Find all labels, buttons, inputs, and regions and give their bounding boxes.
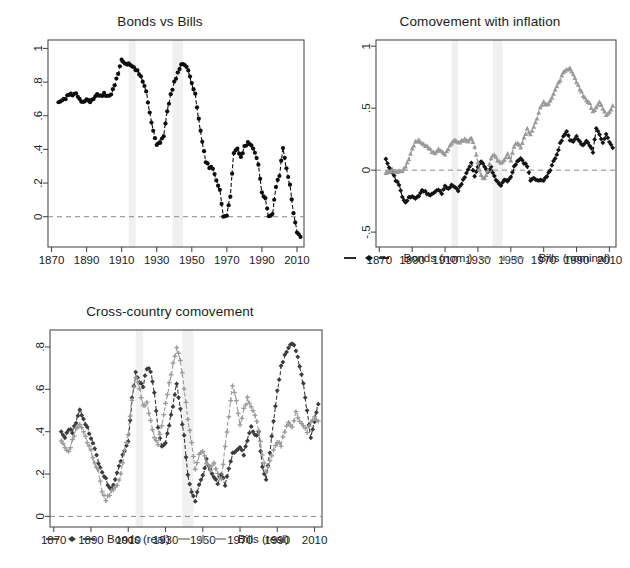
data-point	[263, 196, 267, 200]
chart-svg-comovement-with-inflation: 1.50-.518701890191019301950197019902010	[330, 32, 630, 277]
data-point	[162, 134, 166, 138]
data-point	[290, 197, 294, 201]
data-point	[74, 91, 78, 95]
data-point	[265, 206, 269, 210]
data-point	[148, 110, 152, 114]
data-point	[383, 157, 388, 162]
data-point	[235, 147, 239, 151]
data-point	[150, 379, 155, 384]
data-point	[158, 141, 162, 145]
data-point	[241, 151, 245, 155]
data-point	[223, 483, 228, 488]
data-point	[291, 211, 295, 215]
data-point	[154, 409, 159, 414]
panel-title-cross-country-comovement: Cross-country comovement	[0, 304, 340, 319]
data-point	[299, 372, 304, 377]
data-point	[197, 117, 201, 121]
y-tick-label: .4	[34, 426, 46, 436]
data-point	[143, 373, 148, 378]
data-point	[152, 390, 157, 395]
legend-swatch-bills-real	[176, 532, 232, 546]
data-point	[141, 80, 145, 84]
x-tick-label: 2010	[284, 254, 310, 266]
data-point	[109, 92, 113, 96]
data-point	[178, 406, 183, 411]
data-point	[169, 92, 173, 96]
data-point	[281, 146, 285, 150]
y-tick-label: .4	[32, 144, 44, 154]
shaded-band-0	[136, 330, 143, 527]
data-point	[228, 459, 233, 464]
data-point	[76, 413, 81, 418]
data-point	[171, 404, 176, 409]
data-point	[316, 402, 321, 407]
data-point	[256, 163, 260, 167]
data-point	[283, 156, 287, 160]
data-point	[549, 163, 554, 168]
data-point	[214, 178, 218, 182]
y-tick-label: 1	[360, 43, 372, 49]
data-point	[398, 188, 403, 193]
data-point	[200, 473, 205, 478]
data-point	[230, 172, 234, 176]
x-tick-label: 1910	[109, 254, 135, 266]
data-point	[177, 67, 181, 71]
chart-svg-bonds-vs-bills: 1.8.6.4.20187018901910193019501970199020…	[0, 32, 320, 277]
legend-entry-bonds-nominal: Bonds (nom.)	[343, 251, 478, 265]
data-point	[274, 185, 278, 189]
data-point	[170, 88, 174, 92]
data-point	[165, 431, 170, 436]
data-point	[202, 149, 206, 153]
data-point	[247, 431, 252, 436]
data-point	[190, 81, 194, 85]
data-point	[186, 68, 190, 72]
x-tick-label: 1890	[74, 254, 100, 266]
data-point	[284, 166, 288, 170]
data-point	[139, 74, 143, 78]
data-point	[310, 427, 315, 432]
data-point	[472, 144, 477, 149]
data-point	[610, 103, 615, 108]
data-point	[188, 74, 192, 78]
data-point	[111, 87, 115, 91]
data-point	[293, 220, 297, 224]
legend-entry-bonds-real: Bonds (real)	[45, 532, 176, 546]
data-point	[144, 89, 148, 93]
data-point	[116, 72, 120, 76]
data-point	[472, 174, 477, 179]
data-point	[195, 105, 199, 109]
data-point	[531, 124, 536, 129]
data-point	[276, 178, 280, 182]
data-point	[135, 68, 139, 72]
legend-swatch-bonds-real	[45, 532, 101, 546]
data-point	[520, 140, 525, 145]
data-point	[239, 155, 243, 159]
legend-swatch-bonds-nominal	[343, 251, 397, 265]
data-point	[297, 364, 302, 369]
data-point	[295, 354, 300, 359]
data-point	[275, 388, 280, 393]
chart-svg-cross-country-comovement: .8.6.4.201870189019101930195019701990201…	[0, 322, 340, 557]
legend-label-bonds-real: Bonds (real)	[107, 533, 170, 545]
data-point	[277, 174, 281, 178]
data-point	[272, 198, 276, 202]
data-point	[100, 470, 105, 475]
data-point	[279, 159, 283, 163]
data-point	[592, 137, 597, 142]
y-tick-label: 1	[32, 45, 44, 51]
legend-label-bills-nominal: Bills (nominal)	[538, 252, 610, 264]
data-point	[167, 423, 172, 428]
legend-comovement-with-inflation: Bonds (nom.) Bills (nominal)	[330, 246, 630, 270]
plot-area-comovement-with-inflation: 1.50-.518701890191019301950197019902010	[330, 32, 630, 277]
y-tick-label: .2	[32, 178, 44, 188]
data-point	[271, 419, 276, 424]
data-point	[151, 129, 155, 133]
y-tick-label: -.5	[360, 225, 372, 238]
x-tick-label: 1970	[214, 254, 240, 266]
shaded-band-1	[493, 40, 503, 247]
data-point	[87, 431, 92, 436]
data-point	[174, 381, 179, 386]
data-point	[277, 377, 282, 382]
data-point	[149, 120, 153, 124]
x-tick-label: 1870	[39, 254, 65, 266]
